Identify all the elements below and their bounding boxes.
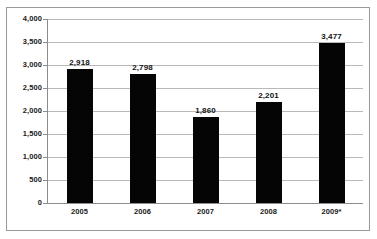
y-tick-label-0: 0 bbox=[2, 198, 42, 207]
bar-value-2005: 2,918 bbox=[50, 58, 110, 67]
y-tick-mark-4000 bbox=[43, 19, 48, 20]
x-tick-label-2007: 2007 bbox=[176, 207, 236, 216]
bar-2007 bbox=[193, 117, 219, 203]
gridline-0 bbox=[48, 203, 363, 204]
chart-screenshot: 4,0003,5003,0002,5002,0001,5001,0005000 … bbox=[0, 0, 377, 239]
y-tick-label-1500: 1,500 bbox=[2, 129, 42, 138]
y-tick-mark-0 bbox=[43, 203, 48, 204]
y-tick-mark-2500 bbox=[43, 88, 48, 89]
bar-2008 bbox=[256, 102, 282, 203]
y-tick-mark-2000 bbox=[43, 111, 48, 112]
x-tick-label-2009*: 2009* bbox=[302, 207, 362, 216]
bar-2009* bbox=[319, 43, 345, 203]
y-axis-tick-labels: 4,0003,5003,0002,5002,0001,5001,0005000 bbox=[0, 0, 42, 239]
y-tick-label-3500: 3,500 bbox=[2, 37, 42, 46]
bar-2005 bbox=[67, 69, 93, 203]
bar-value-2006: 2,798 bbox=[113, 63, 173, 72]
bar-value-2009*: 3,477 bbox=[302, 32, 362, 41]
bar-value-2007: 1,860 bbox=[176, 106, 236, 115]
y-tick-label-1000: 1,000 bbox=[2, 152, 42, 161]
bar-value-2008: 2,201 bbox=[239, 91, 299, 100]
x-tick-label-2005: 2005 bbox=[50, 207, 110, 216]
x-tick-label-2006: 2006 bbox=[113, 207, 173, 216]
y-tick-mark-1000 bbox=[43, 157, 48, 158]
y-tick-label-500: 500 bbox=[2, 175, 42, 184]
y-tick-label-2500: 2,500 bbox=[2, 83, 42, 92]
y-tick-label-3000: 3,000 bbox=[2, 60, 42, 69]
y-tick-label-2000: 2,000 bbox=[2, 106, 42, 115]
y-tick-mark-3000 bbox=[43, 65, 48, 66]
bar-2006 bbox=[130, 74, 156, 203]
gridline-3500 bbox=[48, 42, 363, 43]
y-tick-label-4000: 4,000 bbox=[2, 14, 42, 23]
y-tick-mark-3500 bbox=[43, 42, 48, 43]
y-tick-mark-500 bbox=[43, 180, 48, 181]
gridline-2500 bbox=[48, 88, 363, 89]
y-tick-mark-1500 bbox=[43, 134, 48, 135]
x-tick-label-2008: 2008 bbox=[239, 207, 299, 216]
gridline-4000 bbox=[48, 19, 363, 20]
